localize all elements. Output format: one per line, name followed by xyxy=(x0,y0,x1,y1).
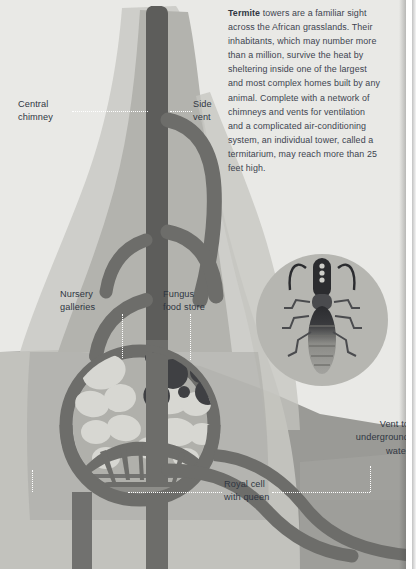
leader-side-vent xyxy=(170,111,192,112)
leader-fungus xyxy=(190,314,191,360)
leader-nursery xyxy=(122,314,123,358)
lower-shaft xyxy=(146,492,168,569)
page-edge xyxy=(412,0,416,569)
leader-central-chimney xyxy=(72,111,148,112)
callout-side-vent: Side vent xyxy=(193,98,212,125)
leader-royal-cell-left xyxy=(32,470,33,492)
leader-vent-water-drop xyxy=(370,466,371,492)
page-edge-shadow xyxy=(399,0,406,569)
body-copy: Termite towers are a familiar sight acro… xyxy=(228,6,380,175)
callout-central-chimney: Central chimney xyxy=(18,98,53,125)
infographic-page: Termite towers are a familiar sight acro… xyxy=(0,0,416,569)
body-copy-text: towers are a familiar sight across the A… xyxy=(228,8,380,173)
leader-vent-water xyxy=(272,492,370,493)
callout-royal-cell: Royal cell with queen xyxy=(224,478,269,505)
callout-nursery-galleries: Nursery galleries xyxy=(60,288,95,315)
callout-fungus-food-store: Fungus food store xyxy=(163,288,205,315)
leader-royal-cell xyxy=(128,492,222,493)
body-copy-lead: Termite xyxy=(228,8,260,18)
